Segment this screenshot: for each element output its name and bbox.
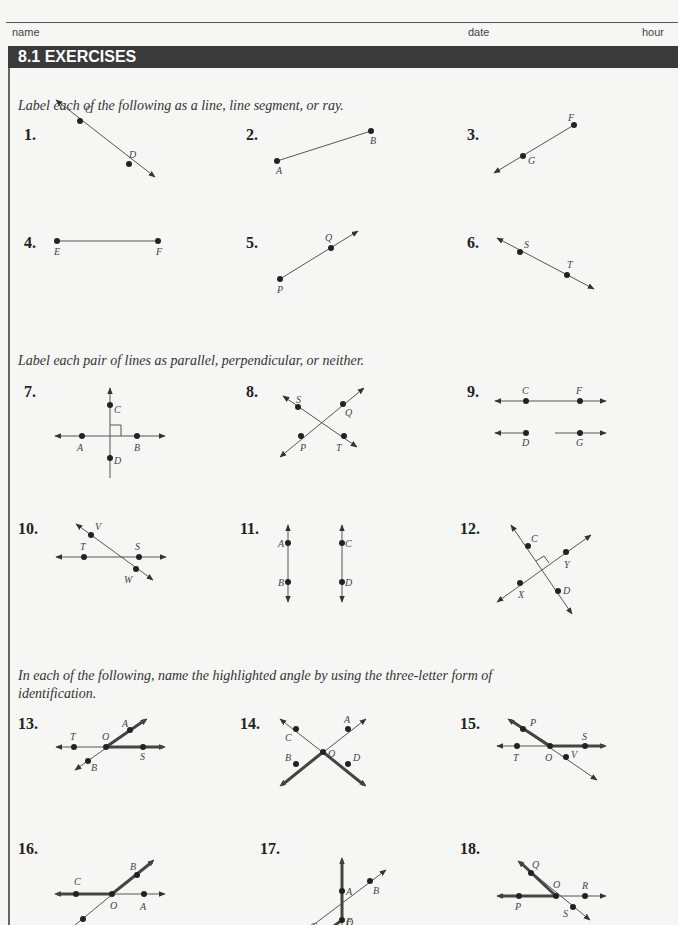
svg-text:S: S bbox=[524, 239, 529, 250]
svg-text:E: E bbox=[53, 246, 60, 257]
svg-text:D: D bbox=[521, 437, 530, 448]
svg-text:A: A bbox=[275, 165, 283, 176]
svg-text:T: T bbox=[513, 752, 520, 763]
svg-text:S: S bbox=[140, 751, 145, 762]
svg-text:D: D bbox=[128, 149, 137, 160]
svg-text:C: C bbox=[522, 385, 529, 396]
svg-text:G: G bbox=[576, 437, 583, 448]
svg-text:C: C bbox=[74, 876, 81, 887]
svg-text:P: P bbox=[276, 284, 283, 295]
svg-text:Q: Q bbox=[345, 407, 353, 418]
svg-text:C: C bbox=[285, 732, 292, 743]
svg-text:B: B bbox=[373, 885, 379, 896]
svg-text:C: C bbox=[114, 404, 121, 415]
svg-text:O: O bbox=[110, 900, 117, 911]
svg-text:A: A bbox=[121, 718, 129, 729]
svg-text:B: B bbox=[91, 762, 97, 773]
svg-text:T: T bbox=[80, 541, 87, 552]
svg-text:D: D bbox=[562, 585, 571, 596]
svg-text:B: B bbox=[130, 861, 136, 872]
svg-text:D: D bbox=[113, 455, 122, 466]
svg-text:B: B bbox=[134, 442, 140, 453]
svg-text:P: P bbox=[299, 442, 306, 453]
svg-text:A: A bbox=[345, 886, 353, 897]
svg-text:O: O bbox=[545, 752, 552, 763]
svg-text:F: F bbox=[345, 916, 353, 925]
svg-text:A: A bbox=[76, 442, 84, 453]
svg-text:A: A bbox=[277, 538, 285, 549]
svg-text:T: T bbox=[70, 731, 77, 742]
svg-text:S: S bbox=[563, 908, 568, 919]
svg-text:X: X bbox=[517, 589, 525, 600]
svg-text:B: B bbox=[285, 752, 291, 763]
svg-text:T: T bbox=[336, 442, 343, 453]
svg-text:C: C bbox=[310, 921, 317, 925]
svg-text:O: O bbox=[553, 879, 560, 890]
svg-text:V: V bbox=[95, 521, 103, 532]
svg-text:S: S bbox=[582, 731, 587, 742]
svg-text:S: S bbox=[296, 394, 301, 405]
svg-text:C: C bbox=[85, 104, 92, 115]
svg-text:O: O bbox=[102, 731, 109, 742]
svg-text:Q: Q bbox=[532, 859, 540, 870]
svg-text:A: A bbox=[139, 901, 147, 912]
svg-text:A: A bbox=[343, 714, 351, 725]
svg-text:B: B bbox=[278, 577, 284, 588]
svg-text:R: R bbox=[581, 880, 588, 891]
svg-text:V: V bbox=[571, 749, 579, 760]
svg-text:C: C bbox=[531, 533, 538, 544]
svg-text:Q: Q bbox=[325, 232, 333, 243]
svg-text:T: T bbox=[567, 259, 574, 270]
svg-text:F: F bbox=[575, 385, 583, 396]
svg-text:C: C bbox=[345, 538, 352, 549]
svg-text:F: F bbox=[567, 112, 575, 123]
svg-text:D: D bbox=[344, 577, 353, 588]
svg-text:Y: Y bbox=[564, 559, 571, 570]
svg-text:B: B bbox=[370, 135, 376, 146]
svg-text:D: D bbox=[352, 752, 361, 763]
svg-text:G: G bbox=[528, 155, 535, 166]
svg-text:P: P bbox=[529, 717, 536, 728]
svg-text:O: O bbox=[328, 748, 335, 759]
svg-text:P: P bbox=[514, 901, 521, 912]
svg-text:W: W bbox=[124, 574, 134, 585]
svg-text:S: S bbox=[135, 541, 140, 552]
geometry-figures: CD AB FG EF PQ ST CABD SQPT CFDG VTSW AC… bbox=[0, 0, 678, 925]
svg-text:F: F bbox=[155, 246, 163, 257]
